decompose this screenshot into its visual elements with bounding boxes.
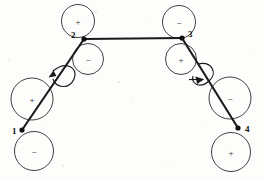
member-2-3 <box>84 38 182 39</box>
node-dot-4 <box>235 125 240 130</box>
loop-left-arrowhead-icon <box>49 70 57 77</box>
node-label-2: 2 <box>71 30 76 40</box>
sign-circle-left-lower: − <box>15 132 54 171</box>
sign-circle-label: + <box>29 95 34 105</box>
node-label-4: 4 <box>245 124 250 134</box>
node-dot-1 <box>19 127 24 132</box>
member-1-2 <box>22 39 84 130</box>
sign-circle-right-upper: − <box>209 77 251 119</box>
member-3-4 <box>182 38 238 128</box>
paper-texture <box>8 11 254 166</box>
node-label-1: 1 <box>12 126 17 136</box>
sign-circle-right-lower: + <box>212 133 251 172</box>
frame-diagram-svg: + − + − − + − + <box>0 0 264 180</box>
node-dot-3 <box>179 35 184 40</box>
sign-circle-top-left: + <box>62 5 95 38</box>
sign-circle-label: − <box>85 55 90 65</box>
sign-circle-label: − <box>227 94 232 104</box>
node-label-3: 3 <box>188 29 193 39</box>
diagram-canvas: + − + − − + − + <box>0 0 264 180</box>
sign-circle-label: + <box>178 55 183 65</box>
loop-right-arrowhead-icon <box>195 77 204 84</box>
sign-circle-label: − <box>176 18 181 28</box>
node-dot-2 <box>81 36 86 41</box>
sign-circle-label: + <box>75 17 80 27</box>
sign-circle-label: − <box>31 147 36 157</box>
sign-circle-below-node-3: + <box>166 44 197 75</box>
sign-circle-label: + <box>228 148 233 158</box>
